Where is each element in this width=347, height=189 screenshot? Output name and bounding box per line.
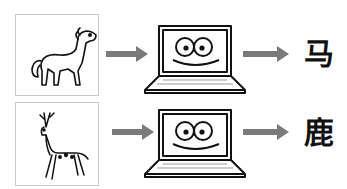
- laptop-icon: [143, 106, 247, 182]
- arrow-right-icon: [243, 46, 289, 66]
- deer-icon: [16, 103, 98, 185]
- output-character-horse: 马: [304, 39, 334, 69]
- horse-icon: [16, 15, 98, 95]
- arrow-right-icon: [106, 46, 148, 66]
- output-character-deer: 鹿: [304, 118, 334, 148]
- deer-image-frame: [15, 102, 99, 186]
- arrow-right-icon: [243, 124, 289, 144]
- laptop-icon: [143, 22, 247, 98]
- horse-image-frame: [15, 14, 99, 96]
